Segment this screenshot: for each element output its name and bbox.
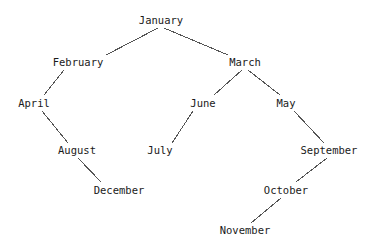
tree-node-january: January — [139, 14, 183, 26]
tree-edge-june-to-july — [172, 111, 193, 143]
tree-edge-march-to-may — [248, 70, 280, 95]
tree-edge-august-to-december — [78, 158, 101, 182]
tree-edge-march-to-june — [214, 70, 242, 95]
tree-node-september: September — [301, 144, 358, 156]
tree-edge-january-to-february — [106, 28, 158, 55]
tree-node-february: February — [53, 56, 104, 68]
tree-node-november: November — [220, 224, 271, 236]
tree-node-october: October — [264, 184, 308, 196]
tree-edge-may-to-september — [294, 111, 324, 143]
tree-node-march: March — [229, 56, 261, 68]
tree-node-april: April — [18, 97, 50, 109]
tree-node-may: May — [277, 97, 296, 109]
tree-edge-september-to-october — [296, 158, 327, 182]
tree-node-august: August — [58, 144, 96, 156]
tree-edge-layer — [0, 0, 376, 250]
tree-edge-october-to-november — [251, 198, 281, 223]
tree-node-july: July — [147, 144, 172, 156]
tree-edge-january-to-march — [164, 28, 228, 55]
tree-edge-april-to-august — [42, 111, 68, 143]
tree-node-june: June — [190, 97, 215, 109]
binary-tree-diagram: JanuaryFebruaryMarchAprilJuneMayAugustJu… — [0, 0, 376, 250]
tree-node-december: December — [94, 184, 145, 196]
tree-edge-february-to-april — [44, 70, 64, 95]
